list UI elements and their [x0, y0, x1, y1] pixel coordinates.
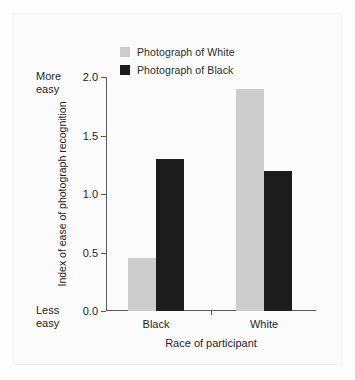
y-tick-1-0	[101, 194, 106, 195]
y-tick-1-5	[101, 136, 106, 137]
chart-legend: Photograph of White Photograph of Black	[120, 44, 320, 80]
bar-black-participant-photograph-of-black	[156, 159, 184, 311]
legend-label-photograph-of-black: Photograph of Black	[137, 64, 233, 76]
y-tick-label-0-5: 0.5	[83, 247, 98, 259]
x-tick-group-separator	[211, 311, 212, 315]
legend-swatch-photograph-of-black	[120, 65, 130, 75]
y-tick-label-1-5: 1.5	[83, 130, 98, 142]
x-axis-title: Race of participant	[165, 337, 257, 349]
y-axis-line	[106, 77, 107, 311]
y-tick-label-1-0: 1.0	[83, 188, 98, 200]
annotation-more-easy: More easy	[36, 70, 61, 96]
plot-area: 2.0 1.5 1.0 0.5 0.0 Black White	[106, 77, 316, 311]
x-group-label-white: White	[250, 318, 278, 330]
x-group-label-black: Black	[143, 318, 170, 330]
annotation-less-easy: Less easy	[36, 304, 59, 330]
y-tick-0-5	[101, 253, 106, 254]
bar-chart-figure: Photograph of White Photograph of Black …	[0, 0, 355, 380]
bar-white-participant-photograph-of-white	[236, 89, 264, 311]
legend-swatch-photograph-of-white	[120, 47, 130, 57]
y-tick-0-0	[101, 311, 106, 312]
y-tick-label-2-0: 2.0	[83, 71, 98, 83]
legend-item-photograph-of-white: Photograph of White	[120, 44, 320, 60]
bar-black-participant-photograph-of-white	[128, 258, 156, 311]
y-axis-title: Index of ease of photograph recognition	[56, 101, 68, 286]
y-tick-2-0	[101, 77, 106, 78]
y-tick-label-0-0: 0.0	[83, 305, 98, 317]
legend-item-photograph-of-black: Photograph of Black	[120, 62, 320, 78]
legend-label-photograph-of-white: Photograph of White	[137, 46, 235, 58]
bar-white-participant-photograph-of-black	[264, 171, 292, 311]
